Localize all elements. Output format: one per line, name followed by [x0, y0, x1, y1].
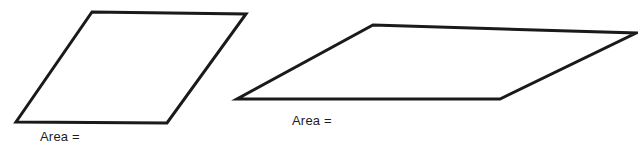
- area-label-parallelogram-1: Area =: [40, 130, 80, 143]
- parallelogram-1-shape: [16, 12, 246, 123]
- parallelogram-2-shape: [237, 25, 636, 99]
- parallelograms-figure: [0, 0, 638, 154]
- worksheet-canvas: Area = Area =: [0, 0, 638, 154]
- area-label-parallelogram-2: Area =: [292, 114, 332, 127]
